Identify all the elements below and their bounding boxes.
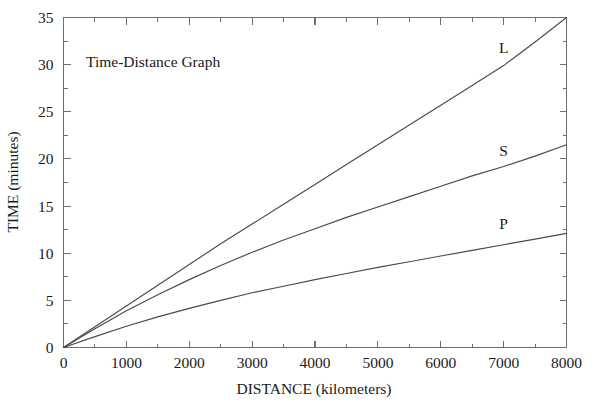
y-tick-label: 20 bbox=[38, 150, 54, 167]
x-tick-label: 0 bbox=[60, 354, 68, 371]
y-tick-label: 5 bbox=[46, 292, 54, 309]
y-axis-title: TIME (minutes) bbox=[4, 131, 22, 232]
y-tick-label: 25 bbox=[38, 103, 54, 120]
curve-label-p: P bbox=[499, 215, 508, 232]
x-tick-label: 7000 bbox=[488, 354, 519, 371]
x-tick-label: 2000 bbox=[174, 354, 205, 371]
x-tick-label: 6000 bbox=[425, 354, 456, 371]
curve-label-s: S bbox=[499, 142, 508, 159]
curve-label-l: L bbox=[499, 39, 508, 56]
x-tick-label: 4000 bbox=[300, 354, 331, 371]
y-tick-label: 35 bbox=[38, 9, 54, 26]
chart-title: Time-Distance Graph bbox=[86, 53, 220, 70]
y-tick-label: 0 bbox=[46, 339, 54, 356]
y-tick-label: 10 bbox=[38, 245, 54, 262]
x-tick-label: 8000 bbox=[551, 354, 582, 371]
x-tick-label: 5000 bbox=[362, 354, 393, 371]
x-axis-tick-labels: 010002000300040005000600070008000 bbox=[60, 354, 583, 371]
x-axis-title: DISTANCE (kilometers) bbox=[236, 380, 391, 398]
time-distance-chart-figure: LSP 010002000300040005000600070008000 05… bbox=[0, 0, 597, 402]
x-tick-label: 1000 bbox=[111, 354, 142, 371]
y-tick-label: 30 bbox=[38, 56, 54, 73]
y-tick-label: 15 bbox=[38, 198, 54, 215]
x-tick-label: 3000 bbox=[237, 354, 268, 371]
chart-canvas: LSP 010002000300040005000600070008000 05… bbox=[0, 0, 597, 402]
